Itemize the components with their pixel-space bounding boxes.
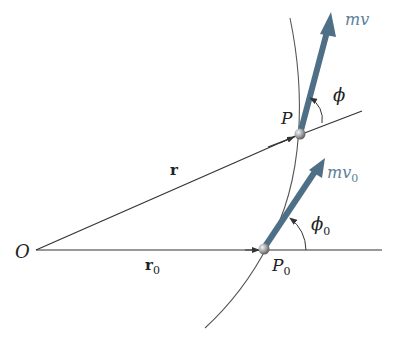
mv0-vector-shaft xyxy=(264,170,316,248)
mv-vector-head xyxy=(320,12,336,37)
phi0-label: ϕ0 xyxy=(311,213,330,238)
phi-label: ϕ xyxy=(333,84,345,105)
r0-label: r0 xyxy=(145,256,160,277)
phi0-angle-arc xyxy=(290,218,306,250)
trajectory-path xyxy=(205,18,299,328)
r-arrowhead xyxy=(280,137,294,143)
mv-label: mv xyxy=(345,10,369,29)
r-label: r xyxy=(170,161,179,179)
p0-label: P0 xyxy=(271,255,290,278)
r-vector-line xyxy=(36,134,300,250)
phi-angle-arc xyxy=(310,98,322,123)
mv0-label: mv0 xyxy=(327,163,358,185)
diagram-svg: O r r0 P P0 mv mv0 ϕ ϕ0 xyxy=(0,0,407,350)
diagram-canvas: O r r0 P P0 mv mv0 ϕ ϕ0 xyxy=(0,0,407,350)
particle-p0 xyxy=(259,244,270,255)
mv-vector-shaft xyxy=(300,28,328,134)
origin-label: O xyxy=(15,241,30,262)
particle-p xyxy=(295,129,306,140)
p-label: P xyxy=(280,108,293,128)
